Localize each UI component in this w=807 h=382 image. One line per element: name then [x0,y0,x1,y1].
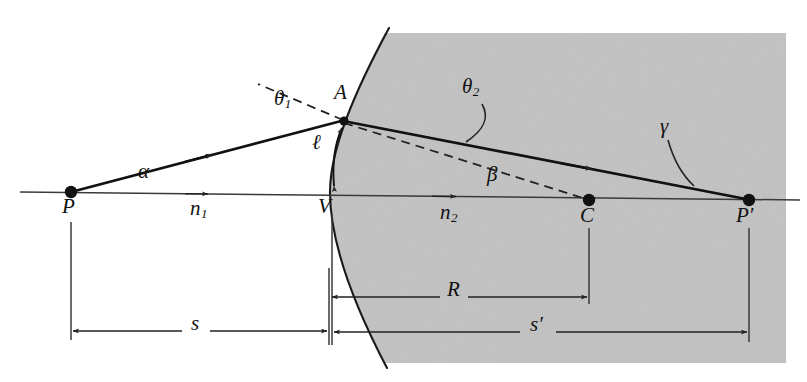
label-angle-alpha: α [138,161,149,182]
label-object-distance-s: s [191,313,199,334]
optics-diagram-svg [0,0,807,382]
label-point-P: P [62,196,75,217]
index-n1-sub: 1 [201,206,208,221]
theta2-base: θ [462,74,472,98]
theta2-sub: 2 [472,84,479,99]
label-point-P-prime: P′ [736,205,753,226]
label-point-A: A [334,82,347,103]
label-point-V: V [318,196,331,217]
figure-canvas: P A V C P′ n1 n2 α θ1 θ2 β γ ℓ R s s′ [0,0,807,382]
label-arc-length-l: ℓ [312,132,321,153]
label-index-n2: n2 [440,202,458,224]
point-A [339,116,348,125]
label-image-distance-s-prime: s′ [530,314,543,335]
label-angle-theta2: θ2 [462,76,479,98]
label-angle-beta: β [487,164,497,185]
index-n1-base: n [190,196,201,220]
theta1-base: θ [274,86,284,110]
label-angle-gamma: γ [660,116,668,137]
theta1-sub: 1 [284,96,291,111]
index-n2-sub: 2 [451,210,458,225]
incident-ray [71,120,345,192]
index-n2-base: n [440,200,451,224]
label-point-C: C [580,205,594,226]
label-radius-R: R [447,279,460,300]
surface-normal-dashed [258,84,343,120]
label-angle-theta1: θ1 [274,88,291,110]
label-index-n1: n1 [190,198,208,220]
